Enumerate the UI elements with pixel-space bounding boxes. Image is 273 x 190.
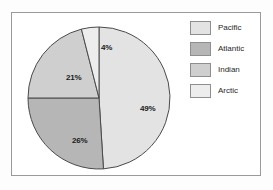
- legend-swatch-atlantic: [190, 42, 211, 56]
- legend-item-atlantic[interactable]: Atlantic: [190, 38, 260, 59]
- legend-item-indian[interactable]: Indian: [190, 59, 260, 80]
- legend-swatch-arctic: [190, 84, 211, 98]
- legend-label-pacific: Pacific: [218, 23, 242, 32]
- slice-label-indian: 21%: [66, 73, 81, 82]
- figure-canvas: 49% 26% 21% 4% Pacific Atlantic Indian A…: [0, 0, 273, 190]
- legend-label-indian: Indian: [218, 65, 240, 74]
- legend-label-arctic: Arctic: [218, 86, 238, 95]
- slice-label-arctic: 4%: [101, 43, 112, 52]
- pie-chart-svg: [26, 25, 172, 171]
- pie-plot-area: 49% 26% 21% 4%: [12, 13, 192, 177]
- pie-slice-atlantic[interactable]: [28, 98, 103, 169]
- chart-legend: Pacific Atlantic Indian Arctic: [190, 17, 260, 101]
- legend-swatch-pacific: [190, 21, 211, 35]
- legend-item-pacific[interactable]: Pacific: [190, 17, 260, 38]
- legend-item-arctic[interactable]: Arctic: [190, 80, 260, 101]
- legend-swatch-indian: [190, 63, 211, 77]
- slice-label-atlantic: 26%: [72, 136, 87, 145]
- chart-frame: 49% 26% 21% 4% Pacific Atlantic Indian A…: [11, 12, 261, 176]
- slice-label-pacific: 49%: [140, 104, 155, 113]
- legend-label-atlantic: Atlantic: [218, 44, 244, 53]
